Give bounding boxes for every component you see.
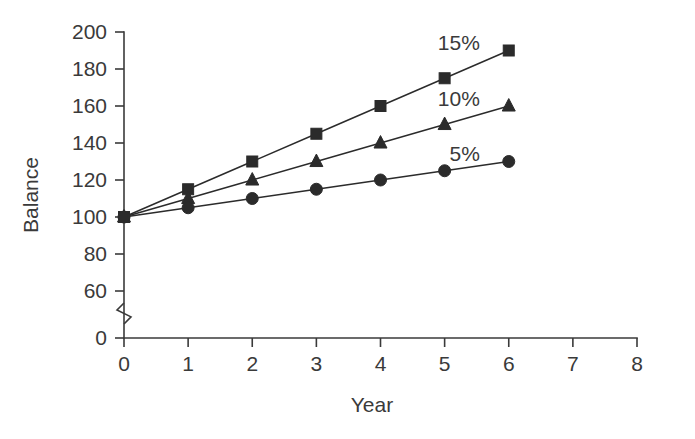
- data-series-15pct: [119, 45, 515, 223]
- data-point-marker-circle: [246, 193, 258, 205]
- y-axis-tick-label: 80: [84, 242, 107, 265]
- data-point-marker-triangle: [502, 99, 515, 111]
- data-point-marker-circle: [182, 202, 194, 214]
- y-axis-title: Balance: [19, 157, 42, 233]
- y-axis-tick-label: 100: [72, 205, 107, 228]
- data-point-marker-circle: [118, 211, 130, 223]
- x-axis-tick-label: 5: [439, 352, 451, 375]
- y-axis-tick-label: 0: [95, 326, 107, 349]
- y-axis-tick-label: 160: [72, 94, 107, 117]
- data-series-group: [118, 45, 516, 223]
- y-axis-tick-label: 120: [72, 168, 107, 191]
- data-point-marker-square: [503, 45, 514, 56]
- x-axis-tick-label: 2: [246, 352, 258, 375]
- chart-container: 20018016014012010080600 012345678 15%10%…: [0, 0, 695, 439]
- x-axis-tick-label: 1: [182, 352, 194, 375]
- y-axis-tick-label: 140: [72, 131, 107, 154]
- data-point-marker-circle: [439, 165, 451, 177]
- data-point-marker-square: [311, 128, 322, 139]
- series-label-10pct: 10%: [438, 87, 480, 110]
- x-axis-tick-label: 8: [631, 352, 643, 375]
- series-label-15pct: 15%: [438, 31, 480, 54]
- y-axis-tick-label: 200: [72, 20, 107, 43]
- x-axis-tick-label: 0: [118, 352, 130, 375]
- data-point-marker-circle: [310, 183, 322, 195]
- interest-growth-line-chart: 20018016014012010080600 012345678 15%10%…: [0, 0, 695, 439]
- data-point-marker-square: [439, 73, 450, 84]
- data-point-marker-circle: [503, 156, 515, 168]
- x-axis: 012345678: [118, 338, 643, 375]
- series-label-5pct: 5%: [450, 142, 480, 165]
- y-axis-tick-label: 180: [72, 57, 107, 80]
- x-axis-tick-label: 4: [375, 352, 387, 375]
- data-point-marker-square: [247, 156, 258, 167]
- series-annotations: 15%10%5%: [438, 31, 480, 165]
- data-point-marker-circle: [375, 174, 387, 186]
- data-point-marker-square: [375, 101, 386, 112]
- x-axis-tick-label: 3: [311, 352, 323, 375]
- y-axis-tick-label: 60: [84, 279, 107, 302]
- x-axis-title: Year: [351, 393, 393, 416]
- x-axis-tick-label: 6: [503, 352, 515, 375]
- y-axis: 20018016014012010080600: [72, 20, 131, 349]
- x-axis-tick-label: 7: [567, 352, 579, 375]
